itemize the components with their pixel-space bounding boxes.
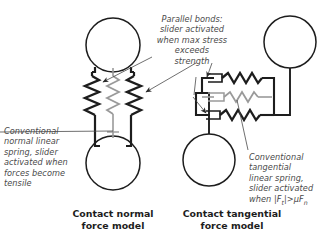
normal-right-spring-icon (127, 76, 141, 115)
annotation-conventional-tangential-spring: Conventional tangential linear spring, s… (249, 152, 323, 208)
tangential-lower-particle (183, 134, 235, 186)
normal-center-spring-branch (107, 68, 119, 138)
caption-contact-tangential-force-model: Contact tangential force model (178, 208, 286, 232)
tangential-middle-spring-icon (224, 92, 258, 102)
normal-right-bond-branch (126, 67, 141, 146)
leader-tangential-to-middle-spring (237, 100, 248, 150)
normal-left-spring-icon (85, 76, 99, 115)
annotation-conventional-normal-spring: Conventional normal linear spring, slide… (4, 126, 76, 188)
leader-parallel-to-right-spring (146, 63, 196, 92)
tangential-upper-particle (264, 16, 316, 68)
normal-left-bond-branch (85, 67, 100, 146)
annotation-tangential-formula: when |Ft|>μFn (249, 194, 308, 204)
tangential-top-left-connector (202, 78, 214, 93)
normal-force-model-group (85, 18, 141, 190)
caption-contact-normal-force-model: Contact normal force model (62, 208, 164, 232)
annotation-tangential-text: Conventional tangential linear spring, s… (249, 152, 313, 193)
normal-upper-particle (86, 18, 140, 72)
normal-center-spring-icon (107, 76, 119, 114)
figure-canvas: Parallel bonds: slider activated when ma… (0, 0, 327, 244)
tangential-top-spring-icon (222, 73, 262, 83)
tangential-right-rail (274, 88, 290, 115)
annotation-parallel-bonds: Parallel bonds: slider activated when ma… (146, 14, 238, 66)
normal-left-top-connector (92, 67, 95, 72)
